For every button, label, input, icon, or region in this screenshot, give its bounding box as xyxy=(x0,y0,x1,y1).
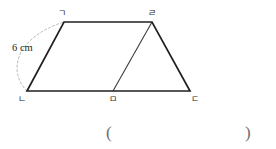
answer-blank-close-paren: ) xyxy=(245,124,251,141)
vertex-label-top-left: ㄱ xyxy=(58,9,66,18)
interior-diagonal-segment xyxy=(113,22,152,91)
vertex-label-bottom-right: ㄷ xyxy=(191,95,199,104)
vertex-label-bottom-mid: ㅁ xyxy=(109,95,117,104)
vertex-label-bottom-left: ㄴ xyxy=(18,95,26,104)
trapezoid-outline xyxy=(27,22,190,91)
vertex-label-top-right: ㄹ xyxy=(148,9,156,18)
dimension-arc xyxy=(17,22,64,91)
side-length-label: 6 cm xyxy=(12,43,33,54)
answer-blank-open-paren: ( xyxy=(106,124,112,141)
answer-blank: ( ) xyxy=(0,120,276,148)
